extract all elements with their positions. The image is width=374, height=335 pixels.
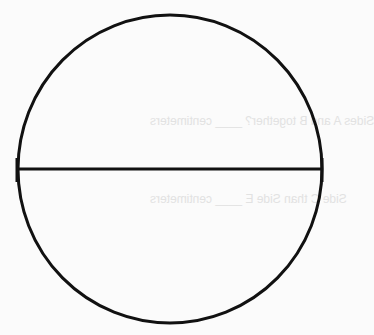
circle-diagram <box>0 0 334 335</box>
